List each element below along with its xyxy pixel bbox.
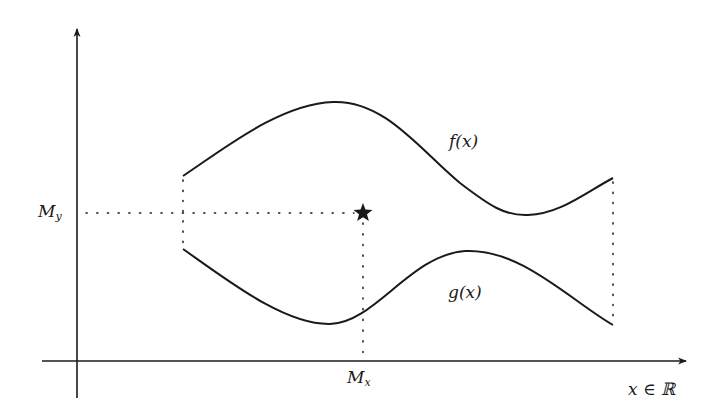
- diagram: f(x) g(x) My Mx x ∈ ℝ: [0, 0, 726, 415]
- label-g: g(x): [448, 282, 482, 302]
- label-mx-main: M: [347, 367, 364, 387]
- diagram-canvas: [0, 0, 726, 415]
- label-my-main: M: [38, 201, 55, 221]
- curve-g: [183, 249, 613, 325]
- label-mx: Mx: [347, 367, 371, 389]
- curve-f: [183, 102, 613, 215]
- label-x-axis: x ∈ ℝ: [628, 379, 675, 399]
- star-icon: [353, 203, 372, 221]
- label-f: f(x): [449, 131, 478, 151]
- label-mx-sub: x: [364, 376, 370, 389]
- label-my-sub: y: [55, 210, 61, 223]
- label-my: My: [38, 201, 62, 223]
